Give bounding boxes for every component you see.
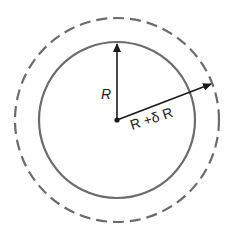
center-point <box>114 117 119 122</box>
outer-radius-label: R +δ R <box>128 104 175 133</box>
inner-radius-label: R <box>101 86 111 102</box>
concentric-circles-diagram: R R +δ R <box>0 0 232 237</box>
